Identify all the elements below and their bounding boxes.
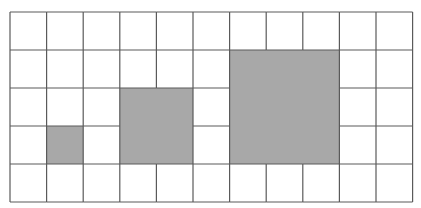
large-square — [230, 50, 340, 164]
small-square — [47, 126, 84, 164]
grid-diagram — [0, 0, 421, 208]
grid-lines — [10, 12, 413, 202]
medium-square — [120, 88, 193, 164]
